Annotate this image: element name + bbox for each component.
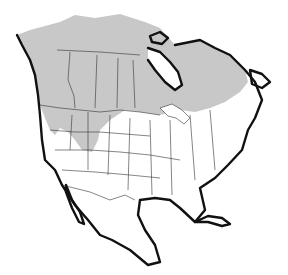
- north-america-range-map: [0, 0, 288, 275]
